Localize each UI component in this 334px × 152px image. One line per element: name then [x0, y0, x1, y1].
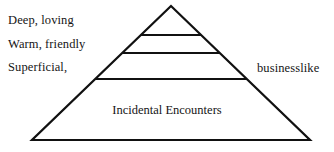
- left-label-superficial: Superficial,: [8, 61, 67, 74]
- right-label-businesslike: businesslike: [257, 62, 319, 75]
- left-label-warm-friendly: Warm, friendly: [8, 38, 85, 51]
- pyramid-diagram-canvas: Deep, loving Warm, friendly Superficial,…: [0, 0, 334, 152]
- tier-label-incidental-encounters: Incidental Encounters: [0, 104, 334, 117]
- left-label-deep-loving: Deep, loving: [8, 14, 74, 27]
